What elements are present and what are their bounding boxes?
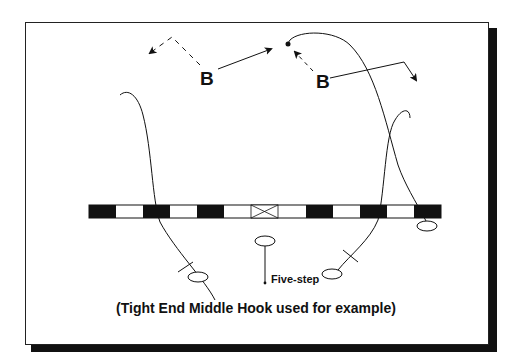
five-step-label: Five-step (271, 273, 320, 285)
tight-end-ellipse (417, 221, 437, 231)
diagram-caption: (Tight End Middle Hook used for example) (116, 300, 396, 316)
qb-drop-point (264, 282, 267, 285)
right-lb-dashed-arrow (295, 52, 313, 71)
tight-end-route (288, 33, 426, 221)
left-block-tick (178, 262, 193, 272)
left-linebacker-label: B (200, 68, 214, 89)
left-receiver-route (120, 92, 215, 300)
left-player-ellipse (188, 272, 208, 282)
right-linebacker-label: B (316, 71, 330, 92)
right-player-ellipse (322, 269, 342, 279)
right-receiver-route (338, 111, 410, 270)
left-lb-arrow (218, 49, 271, 69)
play-diagram: Five-step B B (Tight End Middle Hook use… (0, 0, 521, 361)
right-lb-route (330, 62, 416, 80)
qb-ellipse (255, 236, 275, 246)
line-of-scrimmage (89, 205, 441, 218)
left-lb-dashed-drop (150, 37, 200, 65)
hook-point (286, 42, 291, 47)
